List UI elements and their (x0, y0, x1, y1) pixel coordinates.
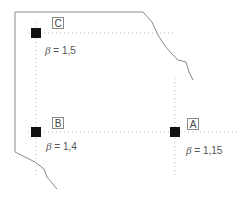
marker-b (31, 127, 41, 137)
beta-text: = 1,5 (53, 45, 76, 56)
point-label-b: B (52, 117, 64, 129)
beta-text: = 1,15 (194, 145, 222, 156)
beta-symbol: β (45, 44, 50, 56)
beta-value-c: β = 1,5 (45, 44, 76, 56)
marker-a (170, 127, 180, 137)
beta-value-b: β = 1,4 (46, 140, 77, 152)
beta-value-a: β = 1,15 (186, 144, 222, 156)
marker-c (31, 28, 41, 38)
point-label-a: A (187, 118, 199, 130)
beta-symbol: β (46, 140, 51, 152)
beta-symbol: β (186, 144, 191, 156)
beta-text: = 1,4 (54, 141, 77, 152)
diagram-canvas (0, 0, 249, 200)
point-label-c: C (52, 17, 64, 29)
